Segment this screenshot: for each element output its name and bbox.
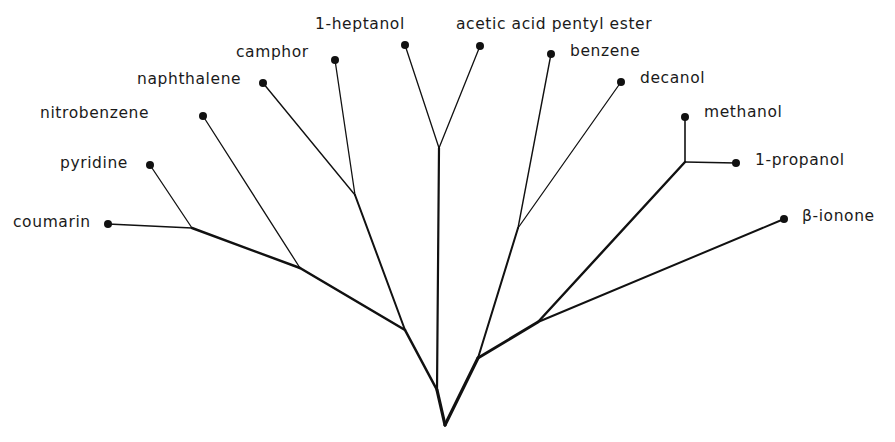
leaf-label: camphor	[236, 45, 309, 61]
tree-branches	[108, 45, 784, 425]
branch-edge	[437, 390, 445, 425]
leaf-dot-icon	[331, 56, 339, 64]
leaf-label: 1-propanol	[755, 153, 845, 169]
leaf-dot-icon	[547, 50, 555, 58]
leaf-label: nitrobenzene	[40, 106, 149, 122]
branch-edge	[445, 358, 478, 425]
branch-edge	[355, 195, 405, 330]
leaf-dot-icon	[199, 112, 207, 120]
leaf-dot-icon	[681, 113, 689, 121]
leaf-dot-icon	[476, 42, 484, 50]
branch-edge	[685, 162, 736, 163]
leaf-label: benzene	[570, 44, 640, 60]
branch-edge	[203, 116, 300, 268]
branch-edge	[518, 54, 551, 228]
leaf-dot-icon	[732, 159, 740, 167]
leaf-label: methanol	[704, 105, 782, 121]
branch-edge	[437, 148, 439, 390]
branch-edge	[439, 46, 480, 148]
leaf-dot-icon	[104, 220, 112, 228]
leaf-label: decanol	[640, 71, 705, 87]
branch-edge	[518, 82, 621, 228]
branch-edge	[405, 330, 437, 390]
leaf-dot-icon	[401, 41, 409, 49]
branch-edge	[150, 165, 192, 228]
branch-edge	[538, 162, 685, 322]
branch-edge	[108, 224, 192, 228]
leaf-dot-icon	[259, 79, 267, 87]
leaf-label: coumarin	[13, 215, 91, 231]
odor-similarity-tree	[0, 0, 895, 442]
branch-edge	[405, 45, 439, 148]
branch-edge	[538, 219, 784, 322]
leaf-label: β-ionone	[802, 209, 875, 225]
leaf-label: 1-heptanol	[315, 17, 405, 33]
leaf-dot-icon	[617, 78, 625, 86]
leaf-label: pyridine	[60, 156, 128, 172]
leaf-dot-icon	[146, 161, 154, 169]
leaf-label: naphthalene	[137, 72, 241, 88]
leaf-label: acetic acid pentyl ester	[456, 17, 652, 33]
leaf-dot-icon	[780, 215, 788, 223]
branch-edge	[300, 268, 405, 330]
branch-edge	[192, 228, 300, 268]
